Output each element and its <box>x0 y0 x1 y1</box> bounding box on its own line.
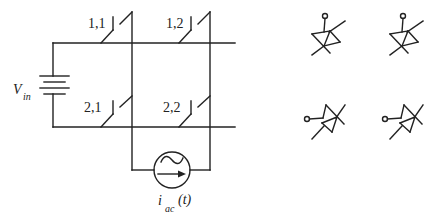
switch-2-2-label: 2,2 <box>163 100 181 115</box>
circuit-diagram: 1,1 1,2 2,1 2,2 V in i ac (t) <box>0 0 434 220</box>
switch-1-1-label: 1,1 <box>88 16 106 31</box>
vin-label: V <box>13 82 23 97</box>
switch-1-1 <box>101 12 132 43</box>
switch-symbol-c-icon <box>305 105 346 139</box>
switch-2-1-label: 2,1 <box>84 100 102 115</box>
switch-2-2 <box>179 96 210 127</box>
iac-subscript: ac <box>165 203 175 214</box>
switch-1-2 <box>179 12 210 43</box>
iac-suffix: (t) <box>178 192 192 208</box>
switch-1-2-label: 1,2 <box>166 16 184 31</box>
switch-symbol-a-icon <box>312 14 345 56</box>
ac-current-source-icon <box>154 152 190 188</box>
switch-2-1 <box>101 96 132 127</box>
iac-label: i <box>158 193 162 208</box>
battery-icon <box>40 76 69 94</box>
vin-subscript: in <box>23 91 31 102</box>
switch-symbol-d-icon <box>383 105 424 139</box>
switch-symbol-b-icon <box>390 14 423 56</box>
